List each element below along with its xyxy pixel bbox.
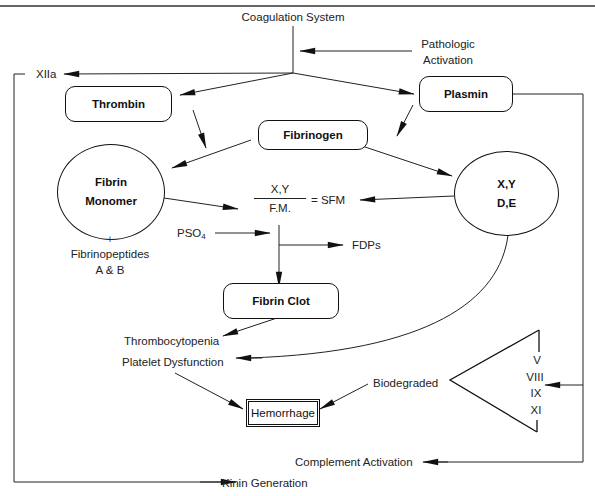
pathologic-activation-label-line2: Activation [423, 53, 473, 67]
clot-thrombocytopenia-arrow [223, 318, 277, 336]
plasmin-right-line [425, 94, 583, 462]
fdps-label: FDPs [352, 238, 381, 252]
factor-v: V [533, 353, 541, 367]
thrombin-node: Thrombin [65, 86, 172, 122]
sfm-equation-label: = SFM [311, 193, 345, 207]
plasmin-node-label: Plasmin [444, 88, 488, 100]
factor-xi: XI [531, 403, 542, 417]
platelet-dysfunction-label: Platelet Dysfunction [122, 355, 224, 369]
fibrin-clot-label: Fibrin Clot [252, 295, 310, 307]
degradation-products-label-line1: X,Y [497, 175, 516, 194]
plasmin-arrow [293, 73, 414, 94]
complement-activation-label: Complement Activation [295, 455, 413, 469]
fibrin-monomer-node: Fibrin Monomer [57, 144, 165, 240]
fibrinogen-monomer-arrow [172, 140, 251, 168]
fibrin-monomer-label-line1: Fibrin [95, 173, 127, 192]
platelet-hemorrhage-arrow [175, 373, 243, 409]
plasmin-fibrinogen-arrow [397, 105, 413, 136]
degradation-products-node: X,Y D,E [454, 151, 559, 236]
fibrin-monomer-label-line2: Monomer [85, 192, 137, 211]
degradation-products-label-line2: D,E [497, 194, 516, 213]
plus-sign: + [107, 233, 113, 247]
fibrin-clot-node: Fibrin Clot [223, 283, 339, 319]
xiia-arrow [64, 73, 293, 74]
hemorrhage-node: Hemorrhage [248, 401, 318, 425]
fibrinopeptides-label-line2: A & B [96, 263, 125, 277]
pso4-subscript: 4 [201, 232, 205, 241]
biodegraded-label: Biodegraded [373, 376, 438, 390]
thrombin-node-label: Thrombin [92, 98, 145, 110]
xiia-label: XIIa [36, 67, 56, 81]
fibrinopeptides-label-line1: Fibrinopeptides [71, 247, 150, 261]
fraction-bar [254, 198, 306, 199]
thrombin-down-arrow [193, 110, 206, 148]
thrombin-arrow [180, 73, 293, 95]
plasmin-node: Plasmin [419, 76, 513, 112]
fibrinogen-node-label: Fibrinogen [283, 129, 342, 141]
biodegraded-hemorrhage-arrow [320, 384, 368, 409]
coagulation-system-label: Coagulation System [242, 10, 345, 24]
fraction-numerator: X,Y [254, 183, 306, 195]
pso4-base: PSO [177, 227, 201, 239]
coagulation-pathway-diagram: Coagulation System Pathologic Activation… [0, 0, 595, 496]
sfm-fraction: X,Y F.M. [254, 183, 306, 214]
factor-viii: VIII [526, 370, 543, 384]
monomer-sfm-arrow [164, 198, 238, 209]
pathologic-activation-label-line1: Pathologic [421, 37, 475, 51]
factor-ix: IX [531, 386, 542, 400]
fibrinogen-node: Fibrinogen [258, 120, 368, 150]
kinin-generation-label: Kinin Generation [222, 476, 308, 490]
fraction-denominator: F.M. [254, 202, 306, 214]
xyde-sfm-arrow [360, 196, 454, 200]
thrombocytopenia-label: Thrombocytopenia [124, 334, 219, 348]
hemorrhage-label: Hemorrhage [251, 407, 315, 419]
pso4-label: PSO4 [177, 226, 206, 242]
